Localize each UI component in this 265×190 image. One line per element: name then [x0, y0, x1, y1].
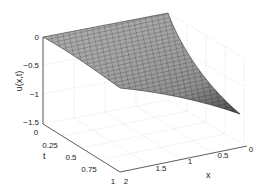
svg-text:−0.5: −0.5 [23, 61, 39, 70]
t-axis-label: t [43, 151, 46, 161]
svg-text:1.5: 1.5 [155, 164, 167, 173]
svg-text:0.5: 0.5 [65, 153, 77, 162]
svg-text:0.75: 0.75 [81, 165, 97, 174]
svg-text:0: 0 [35, 33, 40, 42]
svg-text:0: 0 [34, 128, 39, 137]
svg-text:1: 1 [111, 177, 116, 186]
svg-text:0.25: 0.25 [42, 141, 58, 150]
svg-text:1: 1 [188, 157, 193, 166]
x-axis-label: x [206, 170, 211, 180]
surface [43, 13, 240, 114]
z-axis-label: u(x,t) [14, 71, 24, 92]
svg-text:0: 0 [249, 145, 254, 154]
surface-plot: 0 −0.5 −1 −1.5 u(x,t) 0 0.25 0.5 0.75 1 … [0, 0, 265, 190]
svg-text:0.5: 0.5 [217, 151, 229, 160]
svg-text:2: 2 [124, 177, 129, 186]
svg-text:−1.5: −1.5 [23, 118, 39, 127]
svg-text:−1: −1 [30, 90, 40, 99]
z-axis-ticks: 0 −0.5 −1 −1.5 [23, 33, 39, 127]
